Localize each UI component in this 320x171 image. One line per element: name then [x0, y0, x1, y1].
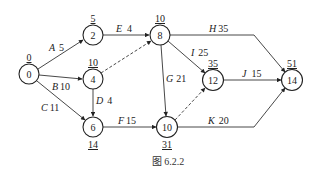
- edge-label-j: J15: [242, 68, 261, 79]
- node-time-10: 31: [162, 139, 172, 150]
- svg-text:8: 8: [158, 30, 163, 41]
- node-time-4: 10: [88, 57, 98, 68]
- svg-text:6: 6: [91, 122, 96, 133]
- edge-label-k: K20: [207, 115, 229, 126]
- edge-label-a: A5: [48, 42, 64, 53]
- node-time-0: 0: [27, 52, 32, 63]
- svg-text:10: 10: [162, 122, 172, 133]
- node-8: 8 10: [150, 13, 170, 45]
- svg-text:14: 14: [287, 75, 297, 86]
- node-12: 12 35: [203, 58, 224, 91]
- edge-label-b: B10: [52, 81, 70, 92]
- edge-k: [177, 88, 285, 127]
- node-14: 14 51: [282, 58, 303, 91]
- node-6: 6 14: [83, 117, 103, 150]
- edge-dummy-4-8: [101, 41, 151, 73]
- edge-dummy-10-12: [175, 88, 205, 120]
- figure-caption: 图 6.2.2: [152, 156, 185, 167]
- edge-label-h: H35: [208, 23, 228, 34]
- svg-text:2: 2: [91, 30, 96, 41]
- svg-text:12: 12: [208, 75, 218, 86]
- node-time-2: 5: [91, 13, 96, 24]
- edges: [37, 35, 285, 127]
- edge-h: [170, 35, 285, 72]
- edge-label-g: G21: [166, 73, 186, 84]
- edge-label-e: E4: [115, 23, 132, 34]
- node-4: 4 10: [83, 57, 103, 89]
- edge-label-d: D4: [95, 95, 112, 106]
- node-time-6: 14: [88, 139, 98, 150]
- node-time-14: 51: [287, 58, 297, 69]
- edge-label-i: I25: [190, 47, 208, 58]
- node-0: 0 0: [19, 52, 39, 84]
- svg-text:0: 0: [27, 69, 32, 80]
- node-2: 2 5: [83, 13, 103, 45]
- edge-label-f: F15: [117, 115, 136, 126]
- network-diagram: A5 B10 C11 D4 E4 F15 G21 H35 I25 J15 K20…: [0, 0, 320, 171]
- edge-label-c: C11: [41, 102, 59, 113]
- node-time-8: 10: [155, 13, 165, 24]
- node-time-12: 35: [208, 58, 218, 69]
- svg-text:4: 4: [91, 74, 96, 85]
- edge-b: [39, 75, 82, 79]
- node-10: 10 31: [157, 117, 178, 151]
